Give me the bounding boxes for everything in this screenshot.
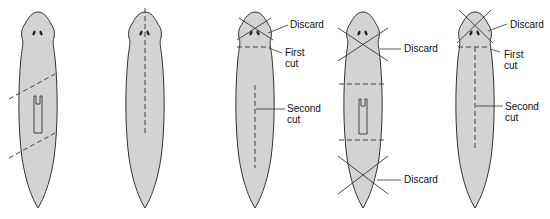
leader-line [488, 24, 507, 31]
panel-4: Discard Discard [338, 12, 438, 208]
planarian-diagram: Discard First cut Second cut Discard Dis… [0, 0, 550, 219]
label-discard: Discard [510, 19, 544, 30]
panel-2 [126, 8, 164, 208]
label-discard-top: Discard [404, 43, 438, 54]
label-first-cut-2: cut [285, 58, 299, 69]
panel-1 [9, 12, 57, 208]
planarian-body [456, 12, 494, 208]
label-second-cut-2: cut [287, 114, 301, 125]
label-second-cut-1: Second [505, 101, 539, 112]
label-second-cut-1: Second [287, 103, 321, 114]
label-first-cut-1: First [504, 49, 524, 60]
label-discard-bottom: Discard [404, 174, 438, 185]
panel-5: Discard First cut Second cut [456, 10, 544, 208]
label-first-cut-2: cut [504, 60, 518, 71]
planarian-body [344, 12, 382, 208]
label-discard: Discard [290, 19, 324, 30]
label-first-cut-1: First [285, 47, 305, 58]
panel-3: Discard First cut Second cut [236, 12, 324, 208]
label-second-cut-2: cut [505, 112, 519, 123]
planarian-body [19, 12, 57, 208]
